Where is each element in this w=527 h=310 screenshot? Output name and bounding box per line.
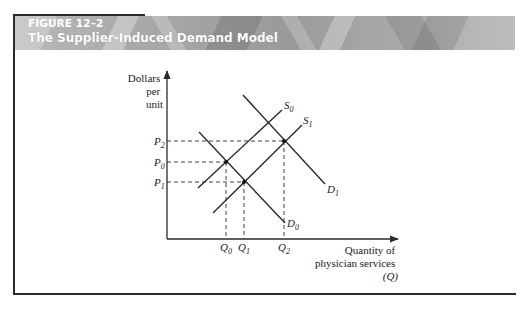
equilibrium-point-e0 [224, 160, 228, 164]
y-axis-label: Dollars per unit [128, 72, 163, 110]
curve-label-s0: S0 [284, 99, 294, 114]
supply-demand-diagram: Dollars per unit Quantity of physician s… [0, 0, 527, 310]
price-label-p0: P0 [153, 156, 165, 171]
equilibrium-point-e1 [242, 180, 246, 184]
equilibrium-point-e2 [282, 139, 286, 143]
x-axis-label: Quantity of physician services (Q) [315, 244, 398, 283]
curve-label-s1: S1 [303, 114, 313, 129]
price-label-p2: P2 [153, 135, 165, 150]
curve-label-d0: D0 [286, 217, 299, 232]
demand-curve-d0 [199, 132, 285, 223]
curve-label-d1: D1 [326, 183, 339, 198]
quantity-label-q2: Q2 [278, 241, 290, 256]
quantity-label-q1: Q1 [238, 241, 250, 256]
quantity-label-q0: Q0 [220, 241, 232, 256]
price-label-p1: P1 [153, 176, 165, 191]
dashed-guides [167, 141, 284, 239]
